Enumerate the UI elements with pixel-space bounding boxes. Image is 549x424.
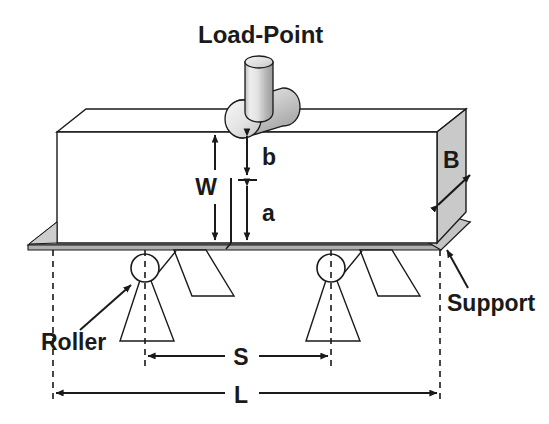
roller-label: Roller bbox=[41, 329, 106, 355]
roller-group-left bbox=[120, 250, 234, 368]
dim-b-label: b bbox=[262, 144, 276, 170]
roller-leader-line bbox=[80, 285, 131, 330]
dim-L-label: L bbox=[234, 382, 248, 408]
dim-a-label: a bbox=[262, 200, 275, 226]
roller-left-secondary-stand bbox=[174, 250, 234, 296]
beam-bend-test-diagram: Load-Point W b a B Support bbox=[0, 0, 549, 424]
load-shaft-top bbox=[245, 56, 273, 68]
roller-right-link-a bbox=[344, 251, 362, 273]
support-leader-line bbox=[447, 250, 468, 288]
roller-right-secondary-stand bbox=[360, 250, 420, 296]
annotation-roller: Roller bbox=[41, 285, 131, 355]
support-plate-edge bbox=[28, 245, 441, 250]
dim-W-label: W bbox=[195, 174, 217, 200]
dimension-S: S bbox=[148, 344, 328, 370]
beam-left-bottom-wedge bbox=[29, 222, 57, 244]
dim-B-label: B bbox=[443, 147, 460, 173]
support-label: Support bbox=[447, 290, 535, 316]
dim-S-label: S bbox=[233, 344, 248, 370]
roller-group-right bbox=[306, 250, 420, 368]
load-point-assembly bbox=[225, 56, 300, 138]
roller-left-link-a bbox=[158, 251, 176, 273]
load-point-label: Load-Point bbox=[198, 21, 323, 48]
annotation-support: Support bbox=[447, 250, 535, 316]
diagram-canvas: Load-Point W b a B Support bbox=[0, 0, 549, 424]
dimension-L: L bbox=[56, 382, 437, 408]
load-shaft-body bbox=[245, 62, 273, 122]
